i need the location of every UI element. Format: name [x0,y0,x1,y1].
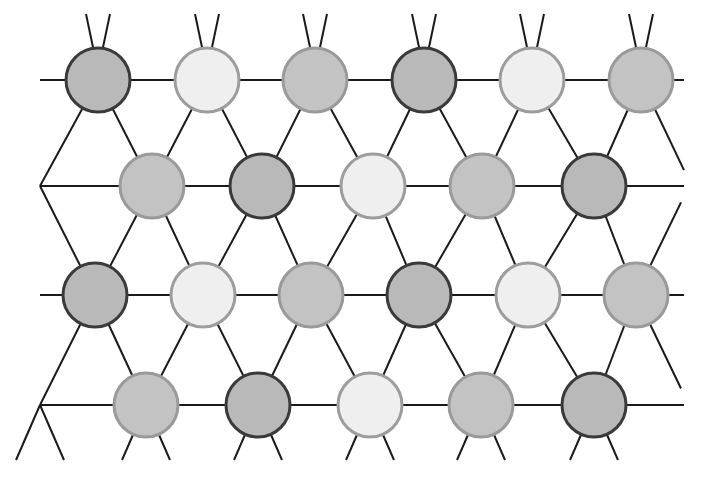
top-edge-stub [86,14,94,52]
lattice-site-circle [562,373,626,437]
dark-site-node [63,263,127,327]
lattice-site-circle [230,154,294,218]
lattice-site-circle [63,263,127,327]
lattice-site-circle [283,48,347,112]
lattice-site-circle [496,263,560,327]
lattice-site-circle [392,48,456,112]
light-site-node [171,263,235,327]
lattice-site-circle [450,154,514,218]
lattice-site-circle [114,373,178,437]
light-site-node [341,154,405,218]
medium-site-node [604,263,668,327]
lattice-site-circle [562,154,626,218]
medium-site-node [120,154,184,218]
dark-site-node [562,154,626,218]
top-edge-stub [195,14,203,52]
lattice-nodes [63,48,673,437]
medium-site-node [279,263,343,327]
light-site-node [500,48,564,112]
lattice-site-circle [175,48,239,112]
medium-site-node [609,48,673,112]
dark-site-node [392,48,456,112]
lattice-site-circle [341,154,405,218]
lattice-site-circle [500,48,564,112]
top-edge-stub [211,14,219,52]
lattice-site-circle [449,373,513,437]
bottom-edge-stub [40,405,64,460]
top-edge-stub [428,14,436,52]
top-edge-stub [629,14,637,52]
dark-site-node [226,373,290,437]
medium-site-node [449,373,513,437]
dark-site-node [66,48,130,112]
lattice-site-circle [279,263,343,327]
light-site-node [496,263,560,327]
lattice-site-circle [338,373,402,437]
lattice-site-circle [171,263,235,327]
lattice-site-circle [604,263,668,327]
top-edge-stub [319,14,327,52]
light-site-node [175,48,239,112]
lattice-site-circle [387,263,451,327]
lattice-site-circle [226,373,290,437]
lattice-svg [0,0,715,478]
dark-site-node [562,373,626,437]
lattice-site-circle [609,48,673,112]
lattice-site-circle [66,48,130,112]
top-edge-stub [303,14,311,52]
dark-site-node [387,263,451,327]
light-site-node [338,373,402,437]
top-edge-stub [102,14,110,52]
lattice-site-circle [120,154,184,218]
top-edge-stub [412,14,420,52]
medium-site-node [114,373,178,437]
dark-site-node [230,154,294,218]
medium-site-node [283,48,347,112]
medium-site-node [450,154,514,218]
top-edge-stub [536,14,544,52]
top-edge-stub [520,14,528,52]
lattice-diagram [0,0,715,478]
top-edge-stub [645,14,653,52]
bottom-edge-stub [16,405,40,460]
